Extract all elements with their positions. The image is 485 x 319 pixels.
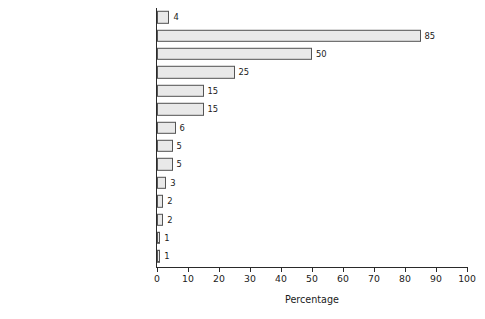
bar: [157, 177, 166, 189]
bar-row: Nova Scotia3: [157, 174, 467, 192]
bar-row: Yukon Territory25: [157, 63, 467, 81]
bar-row: Manitoba15: [157, 82, 467, 100]
bar-row: British Columbia5: [157, 137, 467, 155]
bar-row: New Brunswick2: [157, 192, 467, 210]
x-tick: [250, 267, 251, 272]
bar-row: Quebec1: [157, 229, 467, 247]
x-tick: [436, 267, 437, 272]
bar-value-label: 6: [180, 123, 185, 131]
bar: [157, 250, 160, 262]
bar-row: Northwest Territories50: [157, 45, 467, 63]
bar: [157, 213, 163, 225]
bar: [157, 48, 312, 60]
x-tick-label: 60: [337, 274, 349, 283]
bar-value-label: 25: [239, 68, 250, 76]
bar-value-label: 85: [425, 31, 436, 39]
bar: [157, 195, 163, 207]
bar-value-label: 1: [164, 234, 169, 242]
bar-chart: Canada4Nunavut85Northwest Territories50Y…: [0, 0, 485, 319]
bar-row: Ontario2: [157, 210, 467, 228]
x-tick: [405, 267, 406, 272]
bar: [157, 85, 204, 97]
bar-value-label: 2: [167, 215, 172, 223]
bar-row: Nunavut85: [157, 26, 467, 44]
bar-value-label: 2: [167, 197, 172, 205]
bar-value-label: 1: [164, 252, 169, 260]
bar: [157, 11, 169, 23]
x-tick-label: 70: [368, 274, 380, 283]
x-tick: [374, 267, 375, 272]
bar: [157, 29, 421, 41]
x-tick-label: 90: [430, 274, 442, 283]
bar: [157, 66, 235, 78]
x-axis-title: Percentage: [157, 295, 467, 305]
bar-value-label: 4: [173, 13, 178, 21]
bar: [157, 121, 176, 133]
bar-value-label: 15: [208, 87, 219, 95]
x-tick: [188, 267, 189, 272]
plot-area: Canada4Nunavut85Northwest Territories50Y…: [157, 8, 467, 267]
x-tick-label: 0: [154, 274, 160, 283]
bar: [157, 158, 173, 170]
x-tick-label: 30: [244, 274, 256, 283]
x-tick: [343, 267, 344, 272]
bar-value-label: 5: [177, 160, 182, 168]
bar-value-label: 5: [177, 142, 182, 150]
bar-value-label: 15: [208, 105, 219, 113]
x-tick: [281, 267, 282, 272]
x-tick-label: 100: [458, 274, 476, 283]
bar-row: Saskatchewan15: [157, 100, 467, 118]
bar-row: Newfoundland and Labrador5: [157, 155, 467, 173]
x-tick-label: 10: [182, 274, 194, 283]
x-tick: [312, 267, 313, 272]
bar-row: Canada4: [157, 8, 467, 26]
x-tick: [467, 267, 468, 272]
bar: [157, 140, 173, 152]
bar-value-label: 3: [170, 179, 175, 187]
bar-row: Prince Edward Island1: [157, 247, 467, 265]
bar: [157, 232, 160, 244]
x-tick-label: 50: [306, 274, 318, 283]
x-tick-label: 80: [399, 274, 411, 283]
x-tick: [219, 267, 220, 272]
bar: [157, 103, 204, 115]
bar-row: Alberta6: [157, 118, 467, 136]
bar-value-label: 50: [316, 50, 327, 58]
x-tick-label: 40: [275, 274, 287, 283]
x-tick: [157, 267, 158, 272]
x-tick-label: 20: [213, 274, 225, 283]
